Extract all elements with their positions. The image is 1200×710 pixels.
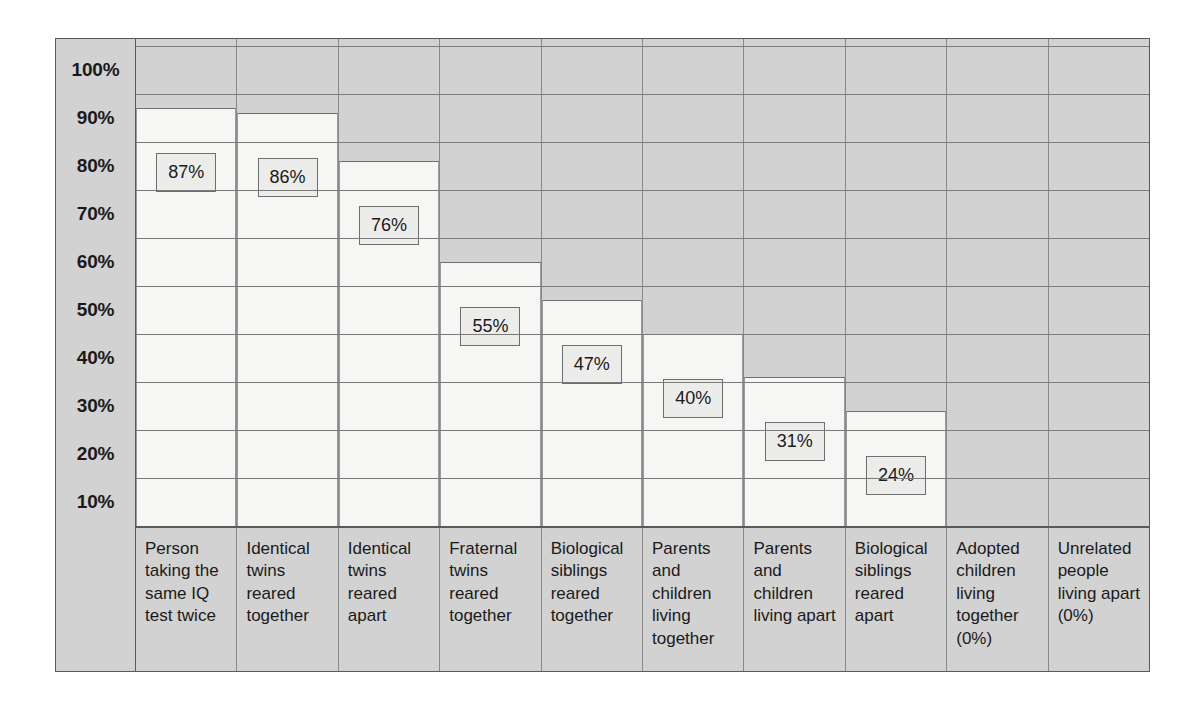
- bar-value-label: 40%: [663, 379, 723, 418]
- category-label: Biological siblings reared apart: [846, 528, 947, 671]
- y-axis-tick-20: 20%: [56, 430, 135, 478]
- y-axis-tick-40: 40%: [56, 334, 135, 382]
- y-axis: 100%90%80%70%60%50%40%30%20%10%: [56, 39, 136, 671]
- category-label: Parents and children living apart: [744, 528, 845, 671]
- category-label: Biological siblings reared together: [542, 528, 643, 671]
- bar-chart: 100%90%80%70%60%50%40%30%20%10% 87%86%76…: [55, 38, 1150, 672]
- category-label: Parents and children living together: [643, 528, 744, 671]
- category-label: Fraternal twins reared together: [440, 528, 541, 671]
- y-axis-tick-50: 50%: [56, 286, 135, 334]
- bar-value-label: 86%: [258, 158, 318, 197]
- bar-value-label: 47%: [562, 345, 622, 384]
- category-label: Unrelated people living apart (0%): [1049, 528, 1149, 671]
- category-label: Identical twins reared together: [237, 528, 338, 671]
- category-label: Adopted children living together (0%): [947, 528, 1048, 671]
- bar-value-label: 55%: [460, 307, 520, 346]
- category-cells: Person taking the same IQ test twiceIden…: [136, 528, 1149, 671]
- y-axis-tick-30: 30%: [56, 382, 135, 430]
- bar-value-label: 24%: [866, 456, 926, 495]
- category-label: Identical twins reared apart: [339, 528, 440, 671]
- y-axis-tick-80: 80%: [56, 142, 135, 190]
- bar[interactable]: [542, 300, 642, 526]
- bar-value-label: 87%: [156, 153, 216, 192]
- y-axis-tick-60: 60%: [56, 238, 135, 286]
- y-axis-tick-70: 70%: [56, 190, 135, 238]
- y-axis-tick-90: 90%: [56, 94, 135, 142]
- bar-value-label: 76%: [359, 206, 419, 245]
- y-axis-tick-100: 100%: [56, 46, 135, 94]
- category-label-row: Person taking the same IQ test twiceIden…: [56, 527, 1149, 671]
- category-label: Person taking the same IQ test twice: [136, 528, 237, 671]
- bar[interactable]: [440, 262, 540, 526]
- bar-value-label: 31%: [765, 422, 825, 461]
- bar[interactable]: [643, 334, 743, 526]
- y-axis-tick-10: 10%: [56, 478, 135, 526]
